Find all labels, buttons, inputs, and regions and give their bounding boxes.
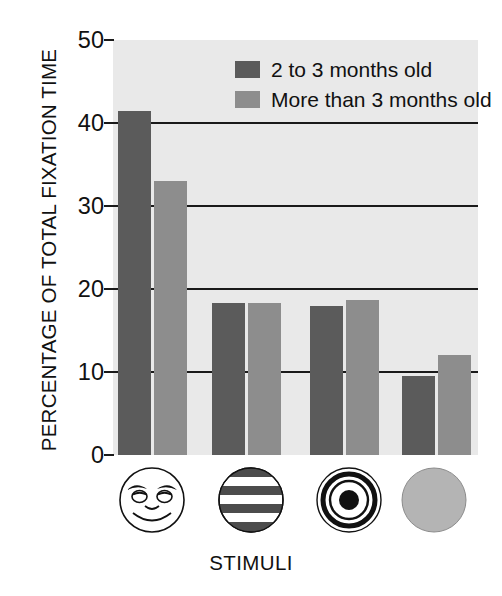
gridline-40: [113, 122, 478, 124]
horizontal-stripes-icon: [217, 466, 285, 534]
bar-bullseye-2to3months: [310, 306, 343, 455]
dark-gray-swatch: [235, 61, 260, 78]
bar-face-over3months: [154, 181, 187, 455]
medium-gray-swatch: [235, 91, 260, 108]
y-tick-label-20: 20: [56, 276, 104, 303]
bar-face-2to3months: [118, 111, 151, 455]
y-tick-label-50: 50: [56, 27, 104, 54]
y-tick-label-30: 30: [56, 193, 104, 220]
bar-stripes-2to3months: [212, 303, 245, 455]
x-axis-title: STIMULI: [0, 551, 502, 575]
bar-plaindisk-2to3months: [402, 376, 435, 455]
bar-stripes-over3months: [248, 303, 281, 455]
bar-plaindisk-over3months: [438, 355, 471, 455]
legend-item-2to3months: 2 to 3 months old: [235, 56, 492, 82]
chart-legend: 2 to 3 months old More than 3 months old: [235, 56, 492, 116]
y-tick-label-10: 10: [56, 359, 104, 386]
y-tick-mark-0: [104, 454, 114, 456]
bar-bullseye-over3months: [346, 300, 379, 455]
legend-label-over3months: More than 3 months old: [271, 89, 492, 110]
plain-disk-icon: [400, 466, 468, 534]
plot-area: 2 to 3 months old More than 3 months old: [113, 40, 478, 455]
legend-item-over3months: More than 3 months old: [235, 86, 492, 112]
y-tick-label-40: 40: [56, 110, 104, 137]
schematic-face-icon: [118, 466, 186, 534]
y-tick-mark-50: [104, 39, 114, 41]
bar-chart-figure: PERCENTAGE OF TOTAL FIXATION TIME 50 40 …: [0, 0, 502, 596]
legend-label-2to3months: 2 to 3 months old: [271, 59, 432, 80]
y-axis-title: PERCENTAGE OF TOTAL FIXATION TIME: [37, 35, 61, 465]
bullseye-icon: [315, 466, 383, 534]
y-tick-label-0: 0: [56, 442, 104, 469]
